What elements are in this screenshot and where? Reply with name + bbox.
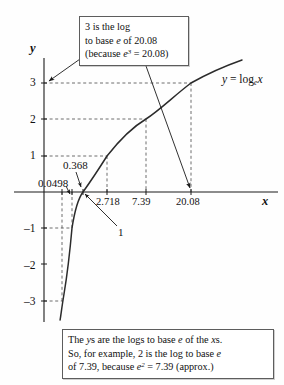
callout-box-top: 3 is the log to base e of 20.08 (because… [79, 16, 189, 66]
arrow-note-0368 [76, 172, 81, 187]
callout-bottom-line-1-c: of the [183, 334, 212, 345]
y-axis-label: y [30, 42, 36, 55]
y-tick-label-2: 2 [30, 114, 36, 126]
callout-bottom-line-2-a: So, for example, 2 is the log to base [68, 348, 217, 359]
callout-bottom-line-2-e: e [217, 348, 222, 359]
callout-top-line-3: (because e3 = 20.08) [85, 47, 183, 61]
curve-equation-label: y = logex [222, 74, 263, 87]
callout-bottom-line-3: of 7.39, because e2 = 7.39 (approx.) [68, 360, 268, 374]
callout-top-line-2-a: to base [85, 35, 116, 46]
y-tick-label-1: 1 [30, 150, 36, 162]
callout-top-line-3-b: = 20.08) [131, 48, 168, 59]
x-tick-label-20-08: 20.08 [176, 197, 200, 208]
callout-bottom-line-1: The ys are the logs to base e of the xs. [68, 333, 268, 347]
callout-bottom-line-3-a: of 7.39, because [68, 361, 137, 372]
x-tick-label-7-39: 7.39 [132, 197, 150, 208]
callout-bottom-line-1-b: s are the logs to base [91, 334, 178, 345]
callout-top-line-3-a: (because [85, 48, 123, 59]
callout-bottom-line-2: So, for example, 2 is the log to base e [68, 347, 268, 361]
y-tick-label-minus-2: –2 [24, 260, 36, 272]
y-tick-label-minus-3: –3 [24, 296, 36, 308]
callout-bottom-line-3-b: = 7.39 (approx.) [145, 361, 214, 372]
callout-box-bottom: The ys are the logs to base e of the xs.… [62, 329, 274, 379]
y-tick-label-3: 3 [30, 77, 36, 89]
x-tick-label-2-718: 2.718 [96, 197, 120, 208]
callout-top-line-2: to base e of 20.08 [85, 34, 183, 48]
value-label-0-0498: 0.0498 [38, 178, 68, 189]
x-axis-label: x [262, 195, 268, 208]
log-curve [60, 60, 242, 320]
callout-top-line-2-b: of 20.08 [121, 35, 158, 46]
curve-equation-argument: x [257, 73, 262, 85]
value-label-1: 1 [118, 227, 124, 238]
curve-equation-function: log [239, 73, 254, 85]
callout-top-line-1: 3 is the log [85, 20, 183, 34]
callout-bottom-line-1-d: s. [216, 334, 223, 345]
callout-bottom-line-1-a: The [68, 334, 86, 345]
log-function-figure: y x 3 2 1 –1 –2 –3 2.718 7.39 20.08 0.36… [0, 0, 284, 385]
value-label-0-368: 0.368 [63, 160, 88, 171]
arrow-callout-to-x2008 [146, 66, 190, 188]
curve-equation-equals: = [227, 73, 239, 85]
y-tick-label-minus-1: –1 [24, 223, 36, 235]
